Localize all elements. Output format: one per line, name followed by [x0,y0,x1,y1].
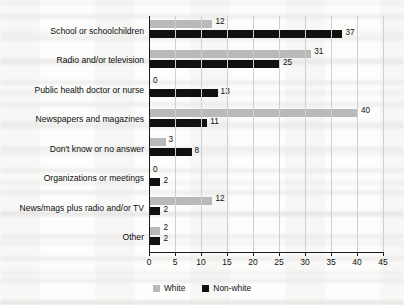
gridline [253,16,254,252]
category-label: Organizations or meetings [44,173,144,183]
x-axis-tick-label: 45 [378,257,387,267]
gridline [227,16,228,252]
chart-row: Newspapers and magazines4011 [149,105,383,135]
x-axis-tick [305,252,306,256]
bar-nonwhite [150,207,160,215]
bar-nonwhite [150,119,207,127]
x-axis-tick [201,252,202,256]
nonwhite-swatch-icon [202,285,209,292]
category-label: Other [123,232,145,242]
bar-value-label: 2 [163,176,168,185]
legend-label-nonwhite: Non-white [213,283,251,293]
chart-row: Radio and/or television3125 [149,46,383,76]
chart-row: Public health doctor or nurse013 [149,75,383,105]
gridline [279,16,280,252]
category-label: Radio and/or television [57,55,144,65]
gridline [305,16,306,252]
chart-row: Other22 [149,223,383,253]
x-axis-tick [253,252,254,256]
white-swatch-icon [153,285,160,292]
x-axis-tick [357,252,358,256]
x-axis-tick [149,252,150,256]
bar-value-label: 8 [195,146,200,155]
legend-item-white: White [153,283,185,293]
x-axis-tick-label: 15 [222,257,231,267]
bar-value-label: 3 [169,135,174,144]
legend-item-nonwhite: Non-white [202,283,251,293]
category-label: News/mags plus radio and/or TV [19,203,144,213]
bar-nonwhite [150,89,218,97]
category-label: Don't know or no answer [50,144,144,154]
x-axis-tick-label: 0 [147,257,152,267]
x-axis-tick-label: 30 [300,257,309,267]
bar-value-label: 0 [153,165,158,174]
bar-nonwhite [150,178,160,186]
category-label: School or schoolchildren [50,26,144,36]
bar-white [150,227,160,235]
bar-nonwhite [150,237,160,245]
bar-value-label: 31 [314,47,323,56]
x-axis-line [149,252,383,253]
bar-white [150,138,166,146]
bar-value-label: 25 [283,58,292,67]
bar-value-label: 12 [215,17,224,26]
chart-row: Don't know or no answer38 [149,134,383,164]
bar-value-label: 11 [210,117,219,126]
x-axis-tick [279,252,280,256]
bar-nonwhite [150,148,192,156]
bar-value-label: 13 [221,87,230,96]
chart-row: News/mags plus radio and/or TV122 [149,193,383,223]
bar-value-label: 0 [153,76,158,85]
x-axis-tick [175,252,176,256]
plot-area: School or schoolchildren1237Radio and/or… [149,16,383,252]
bar-value-label: 12 [215,194,224,203]
bar-white [150,20,212,28]
x-axis-tick [227,252,228,256]
bar-chart-figure: School or schoolchildren1237Radio and/or… [0,0,404,305]
bar-white [150,109,358,117]
x-axis-tick-label: 20 [248,257,257,267]
x-axis-tick-label: 40 [352,257,361,267]
gridline [383,16,384,252]
bar-white [150,197,212,205]
legend-label-white: White [164,283,185,293]
gridline [175,16,176,252]
bar-value-label: 40 [361,106,370,115]
chart-row: School or schoolchildren1237 [149,16,383,46]
x-axis-tick [331,252,332,256]
gridline [331,16,332,252]
x-axis-tick-label: 35 [326,257,335,267]
x-axis-tick-label: 10 [196,257,205,267]
bar-nonwhite [150,30,342,38]
bar-nonwhite [150,60,280,68]
bar-value-label: 2 [163,205,168,214]
chart-row: Organizations or meetings02 [149,164,383,194]
category-label: Public health doctor or nurse [35,85,144,95]
bar-value-label: 2 [163,234,168,243]
bar-value-label: 37 [345,28,354,37]
chart-legend: White Non-white [0,283,404,293]
x-axis-tick-label: 25 [274,257,283,267]
gridline [201,16,202,252]
x-axis-tick [383,252,384,256]
category-label: Newspapers and magazines [36,114,144,124]
x-axis-tick-label: 5 [173,257,178,267]
gridline [357,16,358,252]
bar-value-label: 2 [163,223,168,232]
